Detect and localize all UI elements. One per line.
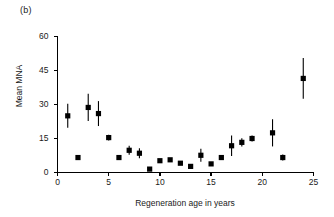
y-axis-title: Mean MNA <box>14 51 24 121</box>
data-point-marker <box>147 167 152 172</box>
y-tick-label: 45 <box>29 66 49 75</box>
data-point-marker <box>270 130 275 135</box>
data-point-marker <box>96 111 101 116</box>
data-point-marker <box>75 155 80 160</box>
data-point-marker <box>301 76 306 81</box>
data-point-marker <box>280 155 285 160</box>
data-point-marker <box>209 161 214 166</box>
data-point-marker <box>65 113 70 118</box>
data-point-marker <box>168 157 173 162</box>
y-tick-label: 30 <box>29 100 49 109</box>
data-point-marker <box>229 143 234 148</box>
y-tick-label: 15 <box>29 134 49 143</box>
data-point-marker <box>137 151 142 156</box>
data-point-marker <box>106 135 111 140</box>
data-point-marker <box>127 148 132 153</box>
x-tick-label: 15 <box>200 178 222 187</box>
figure-panel: (b) Mean MNA Regeneration age in years 0… <box>0 0 334 217</box>
data-series <box>65 58 306 172</box>
x-tick-label: 25 <box>303 178 325 187</box>
y-tick-label: 60 <box>29 32 49 41</box>
data-point-marker <box>249 136 254 141</box>
data-point-marker <box>188 164 193 169</box>
data-point-marker <box>219 155 224 160</box>
data-point-marker <box>157 158 162 163</box>
y-tick-label: 0 <box>29 168 49 177</box>
data-point-marker <box>86 105 91 110</box>
x-tick-label: 10 <box>149 178 171 187</box>
data-point-marker <box>198 153 203 158</box>
x-tick-label: 20 <box>251 178 273 187</box>
x-axis-title: Regeneration age in years <box>57 198 313 208</box>
data-point-marker <box>239 140 244 145</box>
x-tick-label: 5 <box>98 178 120 187</box>
data-point-marker <box>116 155 121 160</box>
data-point-marker <box>178 161 183 166</box>
x-tick-label: 0 <box>47 178 69 187</box>
